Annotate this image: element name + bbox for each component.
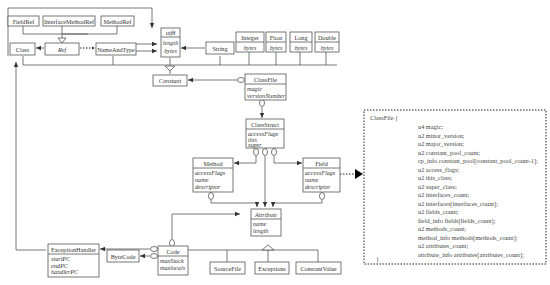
classstruct-attr-super: super bbox=[248, 141, 262, 148]
class-constantvalue: ConstantValue bbox=[296, 262, 341, 274]
struct-line: u2 super_class; bbox=[418, 183, 457, 190]
field-attr-accessflags: accessFlags bbox=[305, 169, 336, 176]
double-attr-bytes: bytes bbox=[321, 44, 334, 51]
attribute-label: Attribute bbox=[254, 211, 277, 218]
field-label: Field bbox=[315, 160, 329, 167]
float-attr-bytes: bytes bbox=[270, 44, 283, 51]
struct-line: u2 methods_count; bbox=[418, 225, 466, 232]
struct-line: u2 attributes_count; bbox=[418, 242, 468, 249]
constant-label: Constant bbox=[159, 77, 182, 84]
struct-line: cp_info constant_pool[constant_pool_coun… bbox=[418, 157, 538, 165]
class-sourcefile: SourceFile bbox=[210, 262, 245, 274]
class-interfacemethodref: InterfaceMethodRef bbox=[43, 16, 95, 26]
code-to-attribute-edge bbox=[172, 214, 240, 239]
constantvalue-label: ConstantValue bbox=[300, 265, 336, 272]
classfile-attr-versionnumber: versionNumber bbox=[247, 92, 286, 99]
interfacemethodref-label: InterfaceMethodRef bbox=[44, 18, 95, 25]
exceptionhandler-label: ExceptionHandler bbox=[51, 246, 96, 253]
method-attr-descriptor: descriptor bbox=[195, 183, 221, 190]
classfile-label: ClassFile bbox=[254, 76, 277, 83]
class-fieldref: FieldRef bbox=[8, 16, 39, 26]
exceptions-label: Exceptions bbox=[258, 265, 286, 272]
utf8-attr-bytes: bytes bbox=[164, 47, 177, 54]
struct-line: u2 this_class; bbox=[418, 174, 452, 181]
field-attr-descriptor: descriptor bbox=[305, 183, 331, 190]
code-label: Code bbox=[166, 248, 179, 255]
attribute-attr-length: length bbox=[253, 227, 268, 234]
class-methodref: MethodRef bbox=[101, 16, 134, 26]
generalization-triangle bbox=[58, 38, 66, 43]
class-double: Double bytes bbox=[315, 32, 339, 52]
utf8-label: utf8 bbox=[166, 29, 177, 36]
attribute-generalization-triangle bbox=[262, 245, 274, 250]
struct-header: ClassFile { bbox=[370, 114, 398, 122]
code-attr-maxstack: maxStack bbox=[160, 257, 184, 264]
class-exceptionhandler: ExceptionHandler startPC endPC handlerPC bbox=[48, 244, 99, 277]
struct-line: u2 constant_pool_count; bbox=[418, 149, 480, 156]
struct-line: attribute_info attributes[attributes_cou… bbox=[418, 251, 524, 259]
jvm-classfile-uml-diagram: FieldRef InterfaceMethodRef MethodRef ut… bbox=[0, 0, 550, 285]
sourcefile-label: SourceFile bbox=[214, 265, 241, 272]
double-label: Double bbox=[318, 34, 336, 41]
class-class: Class bbox=[10, 43, 35, 55]
class-classstruct: ClassStruct accessFlags this super bbox=[246, 119, 284, 148]
float-label: Float bbox=[270, 34, 283, 41]
class-classfile: ClassFile magic versionNumber bbox=[245, 74, 286, 100]
class-attribute: Attribute name length bbox=[251, 209, 281, 236]
struct-line: u2 interfaces_count; bbox=[418, 191, 469, 198]
classstruct-to-method-edge bbox=[234, 156, 256, 163]
classstruct-label: ClassStruct bbox=[251, 121, 279, 128]
struct-line: u2 minor_version; bbox=[418, 132, 465, 139]
class-string: String bbox=[206, 42, 234, 54]
class-field: Field accessFlags name descriptor bbox=[303, 158, 340, 192]
struct-line: method_info methods[methods_count]; bbox=[418, 234, 518, 242]
class-long: Long bytes bbox=[290, 32, 312, 52]
utf8-attr-length: length bbox=[163, 39, 178, 46]
code-attr-maxlocals: maxlocals bbox=[160, 264, 186, 271]
string-label: String bbox=[212, 45, 227, 52]
bytecode-label: ByteCode bbox=[111, 253, 136, 260]
exceptionhandler-attr-handlerpc: handlerPC bbox=[51, 268, 79, 275]
method-label: Method bbox=[203, 160, 223, 167]
field-attr-name: name bbox=[305, 176, 319, 183]
class-bytecode: ByteCode bbox=[107, 250, 139, 262]
exceptionhandler-to-class-edge bbox=[16, 62, 46, 250]
struct-line: u2 major_version; bbox=[418, 140, 464, 147]
class-nameandtype: NameAndType bbox=[96, 43, 136, 55]
class-integer: Integer bytes bbox=[236, 32, 264, 52]
long-label: Long bbox=[294, 34, 307, 41]
classfile-struct-box: ClassFile { u4 magic; u2 minor_version; … bbox=[364, 110, 546, 264]
class-float: Float bytes bbox=[266, 32, 286, 52]
long-attr-bytes: bytes bbox=[295, 44, 308, 51]
class-exceptions: Exceptions bbox=[255, 262, 289, 274]
struct-line: field_info fields[fields_count]; bbox=[418, 217, 496, 225]
struct-line: u2 access_flags; bbox=[418, 166, 459, 173]
integer-label: Integer bbox=[241, 34, 259, 41]
methodref-label: MethodRef bbox=[103, 18, 132, 25]
method-attr-name: name bbox=[195, 176, 209, 183]
struct-line: u2 interfaces[interfaces_count]; bbox=[418, 200, 498, 208]
classstruct-to-field-edge bbox=[274, 156, 302, 163]
class-method: Method accessFlags name descriptor bbox=[193, 158, 233, 192]
method-to-attribute-edge bbox=[211, 200, 257, 207]
method-attr-accessflags: accessFlags bbox=[195, 169, 226, 176]
struct-line: u2 fields_count; bbox=[418, 208, 459, 215]
class-constant: Constant bbox=[153, 75, 187, 86]
constant-generalization-triangle bbox=[165, 66, 175, 71]
struct-footer: } bbox=[376, 255, 379, 263]
attribute-attr-name: name bbox=[253, 220, 267, 227]
field-to-attribute-edge bbox=[273, 200, 322, 207]
nameandtype-label: NameAndType bbox=[97, 46, 135, 53]
class-utf8: utf8 length bytes bbox=[161, 28, 180, 57]
class-ref: Ref bbox=[45, 43, 79, 55]
integer-attr-bytes: bytes bbox=[244, 44, 257, 51]
struct-line: u4 magic; bbox=[418, 123, 443, 130]
ref-label: Ref bbox=[57, 46, 68, 53]
fieldref-label: FieldRef bbox=[13, 18, 36, 25]
class-label: Class bbox=[16, 46, 30, 53]
class-code: Code maxStack maxlocals bbox=[158, 246, 188, 275]
